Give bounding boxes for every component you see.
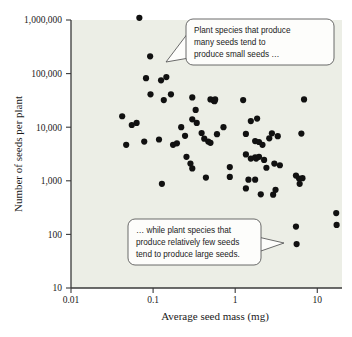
data-point <box>220 124 226 130</box>
y-axis-title: Number of seeds per plant <box>12 96 24 212</box>
data-point <box>136 15 142 21</box>
data-point <box>168 91 174 97</box>
top-callout-line-3: produce small seeds … <box>194 50 280 59</box>
data-point <box>189 165 195 171</box>
data-point <box>259 142 265 148</box>
y-tick-label-1: 100 <box>48 230 63 240</box>
data-point <box>240 97 246 103</box>
data-point <box>147 53 153 59</box>
data-point <box>134 120 140 126</box>
data-point <box>248 118 254 124</box>
data-point <box>294 241 300 247</box>
data-point <box>199 130 205 136</box>
bottom-callout-line-3: tend to produce large seeds. <box>136 250 240 259</box>
data-point <box>269 130 275 136</box>
x-axis-tick-labels: 0.010.1110 <box>63 295 323 305</box>
seed-mass-scatter-figure: 101001,00010,000100,0001,000,000 Number … <box>0 0 352 337</box>
data-point <box>212 96 218 102</box>
data-point <box>299 175 305 181</box>
data-point <box>161 97 167 103</box>
data-point <box>123 142 129 148</box>
bottom-callout-line-1: … while plant species that <box>136 226 232 235</box>
data-point <box>261 157 267 163</box>
top-callout: Plant species that produce many seeds te… <box>166 19 334 65</box>
data-point <box>143 75 149 81</box>
data-point <box>254 115 260 121</box>
y-axis: 101001,00010,000100,0001,000,000 Number … <box>12 15 71 293</box>
data-point <box>258 191 264 197</box>
x-tick-label-1: 0.1 <box>147 295 159 305</box>
data-point <box>293 223 299 229</box>
y-tick-label-5: 1,000,000 <box>24 15 62 25</box>
y-tick-label-4: 100,000 <box>31 69 62 79</box>
scatter-plot: 101001,00010,000100,0001,000,000 Number … <box>0 0 352 337</box>
data-point <box>298 130 304 136</box>
data-point <box>189 94 195 100</box>
data-point <box>141 138 147 144</box>
data-point <box>174 140 180 146</box>
x-axis: 0.010.1110 Average seed mass (mg) <box>63 288 342 323</box>
data-point <box>252 177 258 183</box>
x-axis-ticks <box>71 288 317 293</box>
data-point <box>243 185 249 191</box>
x-tick-label-3: 10 <box>313 295 323 305</box>
y-axis-tick-labels: 101001,00010,000100,0001,000,000 <box>24 15 62 293</box>
data-point <box>271 160 277 166</box>
data-point <box>159 181 165 187</box>
y-tick-label-2: 1,000 <box>41 176 63 186</box>
data-point <box>156 136 162 142</box>
data-point <box>194 120 200 126</box>
x-tick-label-2: 1 <box>233 295 238 305</box>
data-point <box>203 174 209 180</box>
data-point <box>277 162 283 168</box>
data-point <box>182 133 188 139</box>
data-point <box>275 133 281 139</box>
data-point <box>334 222 340 228</box>
data-point <box>243 131 249 137</box>
y-axis-ticks <box>66 20 71 288</box>
data-point <box>214 131 220 137</box>
data-point <box>163 74 169 80</box>
data-point <box>301 96 307 102</box>
data-point <box>270 192 276 198</box>
data-point <box>147 91 153 97</box>
data-point <box>227 164 233 170</box>
data-point <box>193 107 199 113</box>
y-tick-label-0: 10 <box>53 283 63 293</box>
x-axis-title: Average seed mass (mg) <box>161 310 269 323</box>
data-point <box>243 151 249 157</box>
data-point <box>297 181 303 187</box>
data-point <box>333 210 339 216</box>
data-point <box>263 165 269 171</box>
data-point <box>183 154 189 160</box>
data-point <box>207 140 213 146</box>
x-tick-label-0: 0.01 <box>63 295 80 305</box>
data-point <box>227 174 233 180</box>
bottom-callout-line-2: produce relatively few seeds <box>136 238 239 247</box>
top-callout-line-2: many seeds tend to <box>194 38 266 47</box>
data-point <box>245 177 251 183</box>
bottom-callout: … while plant species that produce relat… <box>128 219 284 265</box>
data-point <box>119 113 125 119</box>
data-point <box>158 77 164 83</box>
y-tick-label-3: 10,000 <box>36 123 62 133</box>
top-callout-line-1: Plant species that produce <box>194 26 291 35</box>
data-point <box>178 124 184 130</box>
